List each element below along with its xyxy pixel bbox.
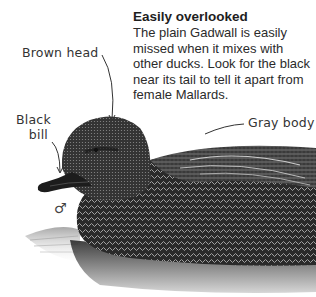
info-box: Easily overlooked The plain Gadwall is e…	[133, 9, 316, 103]
label-gray-body: Gray body	[248, 115, 315, 130]
info-title: Easily overlooked	[133, 9, 316, 25]
label-black-bill: Black bill	[16, 112, 48, 142]
male-symbol-icon: ♂	[54, 200, 67, 216]
gray-body-leader	[205, 124, 244, 134]
black-bill-leader	[52, 142, 60, 172]
label-brown-head: Brown head	[22, 45, 98, 60]
duck-head	[62, 116, 151, 200]
label-black-bill-line1: Black	[16, 112, 48, 127]
label-black-bill-line2: bill	[16, 127, 48, 142]
brown-head-leader	[102, 55, 113, 120]
info-body: The plain Gadwall is easily missed when …	[133, 25, 316, 103]
